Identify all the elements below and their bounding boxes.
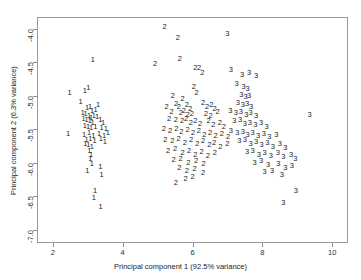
data-point: 1 bbox=[90, 160, 94, 168]
data-points-layer: 1111111111111111111111111111111111111111… bbox=[37, 17, 348, 243]
data-point: 2 bbox=[168, 127, 172, 135]
data-point: 3 bbox=[234, 80, 238, 88]
data-point: 1 bbox=[106, 130, 110, 138]
data-point: 1 bbox=[100, 171, 104, 179]
data-point: 2 bbox=[176, 135, 180, 143]
data-point: 3 bbox=[251, 147, 255, 155]
data-point: 2 bbox=[179, 155, 183, 163]
data-point: 3 bbox=[262, 168, 266, 176]
data-point: 2 bbox=[208, 129, 212, 137]
x-tick-label: 10 bbox=[328, 248, 336, 257]
data-point: 2 bbox=[167, 116, 171, 124]
data-point: 2 bbox=[212, 139, 216, 147]
data-point: 2 bbox=[162, 126, 166, 134]
data-point: 2 bbox=[173, 146, 177, 154]
data-point: 3 bbox=[254, 138, 258, 146]
data-point: 3 bbox=[290, 162, 294, 170]
data-point: 2 bbox=[213, 150, 217, 158]
data-point: 3 bbox=[229, 67, 233, 75]
data-point: 3 bbox=[262, 130, 266, 138]
y-tick-label: -5.5 bbox=[26, 129, 35, 142]
data-point: 2 bbox=[189, 136, 193, 144]
data-point: 3 bbox=[281, 154, 285, 162]
x-tick-mark bbox=[262, 243, 263, 247]
data-point: 3 bbox=[254, 112, 258, 120]
data-point: 2 bbox=[220, 130, 224, 138]
data-point: 3 bbox=[228, 107, 232, 115]
data-point: 1 bbox=[79, 98, 83, 106]
data-point: 3 bbox=[259, 119, 263, 127]
y-tick-label: -7.0 bbox=[26, 230, 35, 243]
data-point: 3 bbox=[232, 118, 236, 126]
data-point: 3 bbox=[237, 138, 241, 146]
data-point: 2 bbox=[197, 128, 201, 136]
x-tick-mark bbox=[332, 243, 333, 247]
data-point: 3 bbox=[274, 131, 278, 139]
data-point: 3 bbox=[270, 167, 274, 175]
data-point: 3 bbox=[269, 152, 273, 160]
data-point: 2 bbox=[200, 69, 204, 77]
data-point: 3 bbox=[262, 149, 266, 157]
x-axis-label: Principal component 1 (92.5% variance) bbox=[0, 262, 361, 271]
pca-scatter-figure: 1111111111111111111111111111111111111111… bbox=[0, 0, 361, 280]
data-point: 2 bbox=[195, 89, 199, 97]
x-tick-label: 4 bbox=[121, 248, 125, 257]
y-tick-label: -6.5 bbox=[26, 196, 35, 209]
data-point: 1 bbox=[66, 130, 70, 138]
data-point: 2 bbox=[174, 116, 178, 124]
data-point: 2 bbox=[186, 126, 190, 134]
data-point: 2 bbox=[163, 136, 167, 144]
data-point: 2 bbox=[199, 148, 203, 156]
data-point: 2 bbox=[206, 152, 210, 160]
y-tick-label: -4.0 bbox=[26, 29, 35, 42]
data-point: 1 bbox=[92, 194, 96, 202]
data-point: 3 bbox=[283, 144, 287, 152]
data-point: 2 bbox=[162, 23, 166, 31]
data-point: 1 bbox=[85, 167, 89, 175]
data-point: 2 bbox=[174, 179, 178, 187]
data-point: 3 bbox=[276, 160, 280, 168]
data-point: 2 bbox=[153, 61, 157, 69]
data-point: 3 bbox=[238, 116, 242, 124]
data-point: 2 bbox=[216, 108, 220, 116]
x-tick-label: 6 bbox=[190, 248, 194, 257]
data-point: 2 bbox=[202, 160, 206, 168]
data-point: 2 bbox=[166, 147, 170, 155]
data-point: 1 bbox=[99, 203, 103, 211]
data-point: 2 bbox=[207, 142, 211, 150]
data-point: 3 bbox=[253, 159, 257, 167]
data-point: 3 bbox=[281, 199, 285, 207]
data-point: 1 bbox=[67, 89, 71, 97]
y-tick-label: -4.5 bbox=[26, 62, 35, 75]
data-point: 2 bbox=[193, 117, 197, 125]
x-tick-mark bbox=[123, 243, 124, 247]
data-point: 3 bbox=[243, 136, 247, 144]
y-axis-label: Principal component 2 (6.3% variance) bbox=[9, 66, 18, 195]
data-point: 3 bbox=[251, 129, 255, 137]
data-point: 1 bbox=[103, 138, 107, 146]
data-point: 3 bbox=[236, 99, 240, 107]
data-point: 3 bbox=[248, 119, 252, 127]
data-point: 2 bbox=[194, 157, 198, 165]
data-point: 1 bbox=[86, 84, 90, 92]
x-tick-mark bbox=[193, 243, 194, 247]
data-point: 1 bbox=[91, 57, 95, 65]
data-point: 2 bbox=[225, 140, 229, 148]
data-point: 2 bbox=[206, 118, 210, 126]
data-point: 3 bbox=[280, 171, 284, 179]
data-point: 3 bbox=[271, 143, 275, 151]
data-point: 3 bbox=[278, 140, 282, 148]
data-point: 2 bbox=[165, 104, 169, 112]
data-point: 2 bbox=[184, 115, 188, 123]
data-point: 3 bbox=[245, 148, 249, 156]
data-point: 3 bbox=[294, 187, 298, 195]
y-tick-label: -5.0 bbox=[26, 96, 35, 109]
data-point: 3 bbox=[240, 71, 244, 79]
data-point: 2 bbox=[172, 156, 176, 164]
data-point: 3 bbox=[248, 109, 252, 117]
y-tick-label: -6.0 bbox=[26, 163, 35, 176]
x-tick-label: 8 bbox=[260, 248, 264, 257]
data-point: 2 bbox=[176, 34, 180, 42]
data-point: 2 bbox=[178, 55, 182, 63]
data-point: 3 bbox=[259, 158, 263, 166]
